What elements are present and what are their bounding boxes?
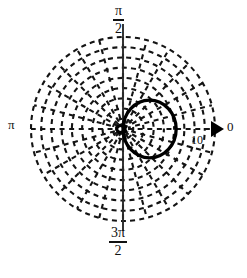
- radial-tick-label-10: 10: [191, 134, 203, 146]
- fraction-numerator: π: [113, 4, 124, 18]
- angle-label-pi-over-2: π 2: [113, 4, 124, 36]
- angle-label-zero: 0: [227, 120, 234, 133]
- fraction-pi-over-2: π 2: [113, 4, 124, 36]
- angle-label-pi: π: [8, 118, 15, 131]
- fraction-3pi-over-2: 3π 2: [109, 226, 127, 258]
- fraction-denominator: 2: [113, 21, 124, 36]
- fraction-numerator: 3π: [109, 226, 127, 240]
- fraction-denominator: 2: [109, 243, 127, 258]
- angle-label-3pi-over-2: 3π 2: [109, 226, 127, 258]
